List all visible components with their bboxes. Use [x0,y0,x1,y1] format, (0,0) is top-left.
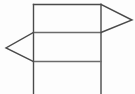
diagram-canvas [0,0,135,94]
diagram-background [0,0,135,94]
diagram-svg [0,0,135,94]
